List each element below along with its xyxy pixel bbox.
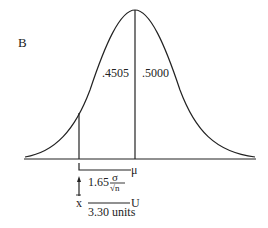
xbar-label: x bbox=[76, 197, 82, 209]
formula-sigma: σ bbox=[112, 172, 118, 183]
formula-coef: 1.65 bbox=[88, 176, 109, 188]
panel-label: B bbox=[18, 36, 27, 49]
width-label: 3.30 units bbox=[88, 206, 135, 218]
area-left-label: .4505 bbox=[102, 67, 129, 79]
arrow-head bbox=[77, 176, 81, 182]
normal-curve-diagram bbox=[0, 0, 268, 228]
mean-label: μ bbox=[131, 164, 137, 176]
bracket bbox=[79, 163, 131, 170]
bell-curve bbox=[25, 10, 255, 157]
formula-sqrt-n: √n bbox=[110, 184, 119, 193]
area-right-label: .5000 bbox=[142, 67, 169, 79]
